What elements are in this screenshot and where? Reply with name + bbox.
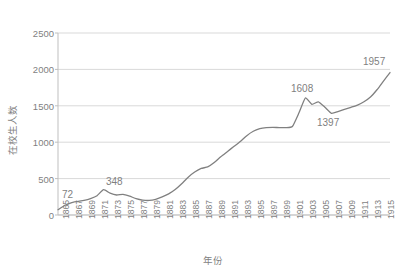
- gridlines: [58, 33, 390, 215]
- y-tick-label: 500: [14, 175, 54, 185]
- line-chart: 2500 2000 1500 1000 500 0 在校生人数 18651867…: [0, 0, 405, 273]
- x-tick-label: 1887: [205, 200, 214, 219]
- x-tick-label: 1879: [153, 200, 162, 219]
- y-tick-label: 2000: [14, 65, 54, 75]
- x-tick-label: 1913: [374, 200, 383, 219]
- axis-lines: [55, 33, 390, 215]
- data-label-1397: 1397: [317, 118, 339, 128]
- x-tick-label: 1877: [140, 200, 149, 219]
- x-tick-label: 1915: [387, 200, 396, 219]
- x-tick-label: 1865: [62, 200, 71, 219]
- y-axis-title: 在校生人数: [8, 105, 18, 155]
- x-tick-label: 1869: [88, 200, 97, 219]
- x-tick-label: 1883: [179, 200, 188, 219]
- x-tick-label: 1891: [231, 200, 240, 219]
- x-tick-label: 1899: [283, 200, 292, 219]
- x-tick-label: 1871: [101, 200, 110, 219]
- data-label-348: 348: [106, 177, 123, 187]
- data-label-1957: 1957: [363, 57, 385, 67]
- data-label-1608: 1608: [291, 84, 313, 94]
- x-tick-label: 1885: [192, 200, 201, 219]
- x-tick-label: 1873: [114, 200, 123, 219]
- y-tick-label: 1500: [14, 102, 54, 112]
- x-tick-label: 1867: [75, 200, 84, 219]
- y-tick-label: 2500: [14, 29, 54, 39]
- x-tick-label: 1907: [335, 200, 344, 219]
- x-tick-label: 1893: [244, 200, 253, 219]
- x-axis-title: 年份: [203, 256, 223, 266]
- y-tick-label: 0: [14, 211, 54, 221]
- x-tick-label: 1909: [348, 200, 357, 219]
- x-tick-label: 1905: [322, 200, 331, 219]
- x-tick-label: 1911: [361, 201, 370, 219]
- x-tick-label: 1903: [309, 200, 318, 219]
- y-tick-label: 1000: [14, 138, 54, 148]
- x-tick-label: 1881: [166, 200, 175, 219]
- data-label-72: 72: [62, 190, 73, 200]
- x-tick-label: 1895: [257, 200, 266, 219]
- x-tick-label: 1889: [218, 200, 227, 219]
- x-tick-label: 1897: [270, 200, 279, 219]
- plot-area: [0, 0, 405, 273]
- x-tick-label: 1875: [127, 200, 136, 219]
- data-series-line: [58, 73, 390, 210]
- x-tick-label: 1901: [296, 200, 305, 219]
